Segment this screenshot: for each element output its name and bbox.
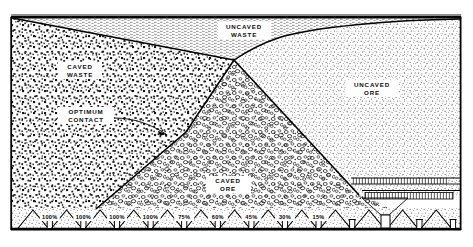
screenshot-root: CAVED WASTE UNCAVED WASTE CAVED ORE UNCA… xyxy=(0,0,473,247)
diagram-figure: CAVED WASTE UNCAVED WASTE CAVED ORE UNCA… xyxy=(10,12,462,236)
drawpoint-percentage-label: 60% xyxy=(212,214,224,220)
uncaved-waste-label-line2: WASTE xyxy=(231,31,257,38)
drawpoint-chute xyxy=(417,220,422,229)
zone-label-uncaved-waste: UNCAVED WASTE xyxy=(218,22,271,39)
caved-ore-label-line1: CAVED xyxy=(215,177,240,184)
drawpoint-percentage-label: 75% xyxy=(178,214,190,220)
uncaved-waste-label-line1: UNCAVED xyxy=(226,23,262,30)
optimum-contact-label-line1: OPTIMUM xyxy=(68,108,103,115)
caved-waste-label-line2: WASTE xyxy=(67,71,93,78)
block-caving-diagram: CAVED WASTE UNCAVED WASTE CAVED ORE UNCA… xyxy=(10,12,462,236)
drawpoint-percentage-label: 100% xyxy=(143,214,159,220)
optimum-contact-label-line2: CONTACT xyxy=(68,116,104,123)
drawpoint-chute xyxy=(350,220,355,229)
drawpoint-percentage-label: 45% xyxy=(245,214,257,220)
drawpoint-percentage-label: 100% xyxy=(42,214,58,220)
drawpoint-percentage-labels: 100%100%100%100%75%60%45%30%15% xyxy=(40,213,329,221)
zone-label-caved-ore: CAVED ORE xyxy=(206,176,251,193)
caved-ore-label-line2: ORE xyxy=(220,185,236,192)
zone-label-uncaved-ore: UNCAVED ORE xyxy=(346,80,399,97)
drawpoint-percentage-label: 30% xyxy=(279,214,291,220)
drawpoint-percentage-label: 100% xyxy=(109,214,125,220)
drawpoint-chute xyxy=(450,220,455,229)
caved-waste-label-line1: CAVED xyxy=(67,63,92,70)
zone-label-caved-waste: CAVED WASTE xyxy=(58,62,102,79)
uncaved-ore-label-line2: ORE xyxy=(364,89,380,96)
uncaved-ore-label-line1: UNCAVED xyxy=(354,81,390,88)
drawpoint-percentage-label: 100% xyxy=(76,214,92,220)
drawpoint-percentage-label: 15% xyxy=(313,214,325,220)
